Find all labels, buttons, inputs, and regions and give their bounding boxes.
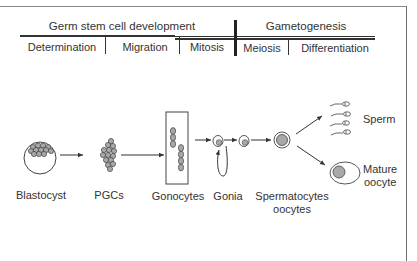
gonia-icon (213, 136, 249, 147)
spermatocyte-icon (274, 132, 290, 148)
pgcs-icon (100, 138, 116, 171)
stage-label-blastocyst: Blastocyst (16, 189, 66, 201)
arrow-to-oocyte (297, 146, 325, 165)
outcome-label-mature: Mature (363, 163, 397, 175)
outcome-label-oocyte: oocyte (364, 176, 396, 188)
stage-label-spermatocytes: Spermatocytes (255, 190, 328, 202)
gonocytes-icon (166, 112, 188, 184)
mature-oocyte-icon (330, 162, 360, 184)
stage-label-gonocytes: Gonocytes (152, 190, 205, 202)
germ-cell-lineage-diagram (0, 0, 417, 261)
blastocyst-icon (24, 142, 56, 174)
sperm-icon (330, 102, 351, 135)
stage-label-pgcs: PGCs (94, 189, 123, 201)
stage-label-oocytes: oocytes (273, 203, 311, 215)
self-renewal-loop-arrow (218, 146, 228, 176)
stage-label-gonia: Gonia (213, 190, 242, 202)
arrow-to-sperm (296, 116, 322, 134)
outcome-label-sperm: Sperm (363, 113, 395, 125)
